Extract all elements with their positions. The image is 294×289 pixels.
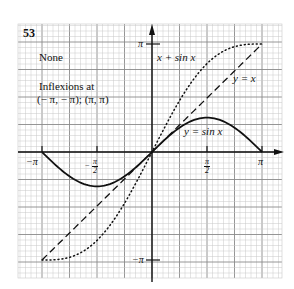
- neg-sign: −: [85, 162, 90, 170]
- graph-figure: 53 None Inflexions at (− π, − π); (π, π)…: [0, 0, 294, 289]
- fraction-denominator: 2: [92, 167, 98, 175]
- label-y-equals-sin-x: y = sin x: [184, 126, 222, 137]
- problem-number: 53: [23, 27, 35, 39]
- x-tick-label-pi: π: [258, 157, 263, 167]
- fraction-denominator: 2: [204, 167, 210, 175]
- y-tick-label-pi: π: [138, 39, 143, 49]
- y-tick-label-neg-pi: −π: [132, 255, 144, 265]
- label-y-equals-x: y = x: [233, 73, 256, 84]
- graph-plot: [0, 0, 294, 289]
- label-x-plus-sin-x: x + sin x: [157, 52, 195, 63]
- inflections-label: Inflexions at: [39, 81, 94, 92]
- x-tick-label-neg-pi: −π: [26, 157, 38, 167]
- x-tick-label-half-pi: π 2: [204, 158, 210, 175]
- inflections-points: (− π, − π); (π, π): [37, 94, 109, 105]
- asymptotes-note: None: [39, 52, 63, 63]
- x-tick-label-neg-half-pi: − π 2: [92, 158, 98, 175]
